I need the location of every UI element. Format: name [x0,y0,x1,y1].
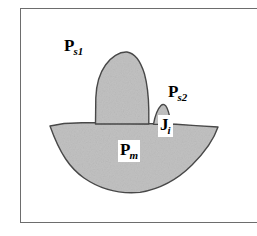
label-ji: Ji [158,115,173,137]
label-ps1-subscript: s1 [73,45,83,57]
label-pm-subscript: m [129,149,138,161]
shape-illustration [0,0,257,236]
label-ji-subscript: i [168,124,171,136]
label-ps2: Ps2 [166,82,189,104]
primary-protrusion-shape [96,52,149,124]
label-ps1: Ps1 [62,36,85,58]
figure-root: Ps1 Ps2 Ji Pm [0,0,257,236]
label-ps2-subscript: s2 [177,91,187,103]
label-pm: Pm [118,140,140,162]
